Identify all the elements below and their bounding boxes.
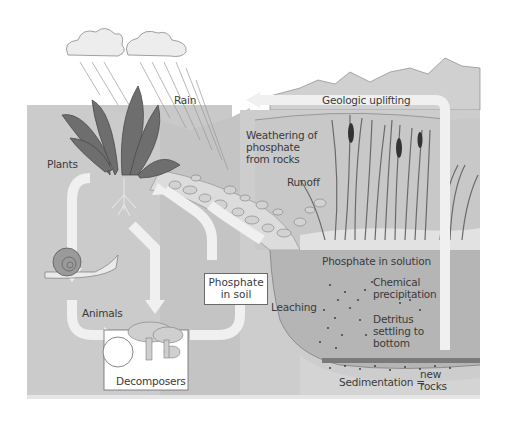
label-animals: Animals bbox=[82, 307, 122, 319]
phosphorus-cycle-illustration bbox=[0, 0, 512, 426]
label-detritus-line2: settling to bbox=[373, 325, 424, 337]
sediment-layer bbox=[322, 358, 480, 363]
clouds bbox=[66, 28, 186, 56]
label-decomposers: Decomposers bbox=[116, 375, 186, 387]
label-rain: Rain bbox=[174, 94, 196, 106]
label-weathering-line1: Weathering of bbox=[246, 129, 317, 141]
label-phosphate-in-solution: Phosphate in solution bbox=[322, 255, 431, 267]
label-geologic-uplifting: Geologic uplifting bbox=[322, 94, 410, 106]
label-chemical-line1: Chemical bbox=[373, 276, 420, 288]
label-weathering-line2: phosphate bbox=[246, 141, 300, 153]
phosphate-soil-line1: Phosphate bbox=[205, 276, 267, 288]
label-new-rocks-line1: new bbox=[420, 368, 441, 380]
label-chemical-line2: precipitation bbox=[373, 288, 437, 300]
label-detritus-line1: Detritus bbox=[373, 313, 414, 325]
phosphate-soil-line2: in soil bbox=[205, 288, 267, 300]
label-sedimentation: Sedimentation = bbox=[339, 376, 425, 388]
label-runoff: Runoff bbox=[287, 176, 320, 188]
label-plants: Plants bbox=[47, 158, 78, 170]
label-new-rocks-line2: rocks bbox=[420, 380, 447, 392]
label-detritus-line3: bottom bbox=[373, 337, 410, 349]
label-weathering-line3: from rocks bbox=[246, 153, 300, 165]
label-leaching: Leaching bbox=[271, 301, 317, 313]
bacteria-circle bbox=[103, 337, 133, 367]
phosphate-in-soil-box: Phosphate in soil bbox=[204, 273, 268, 305]
